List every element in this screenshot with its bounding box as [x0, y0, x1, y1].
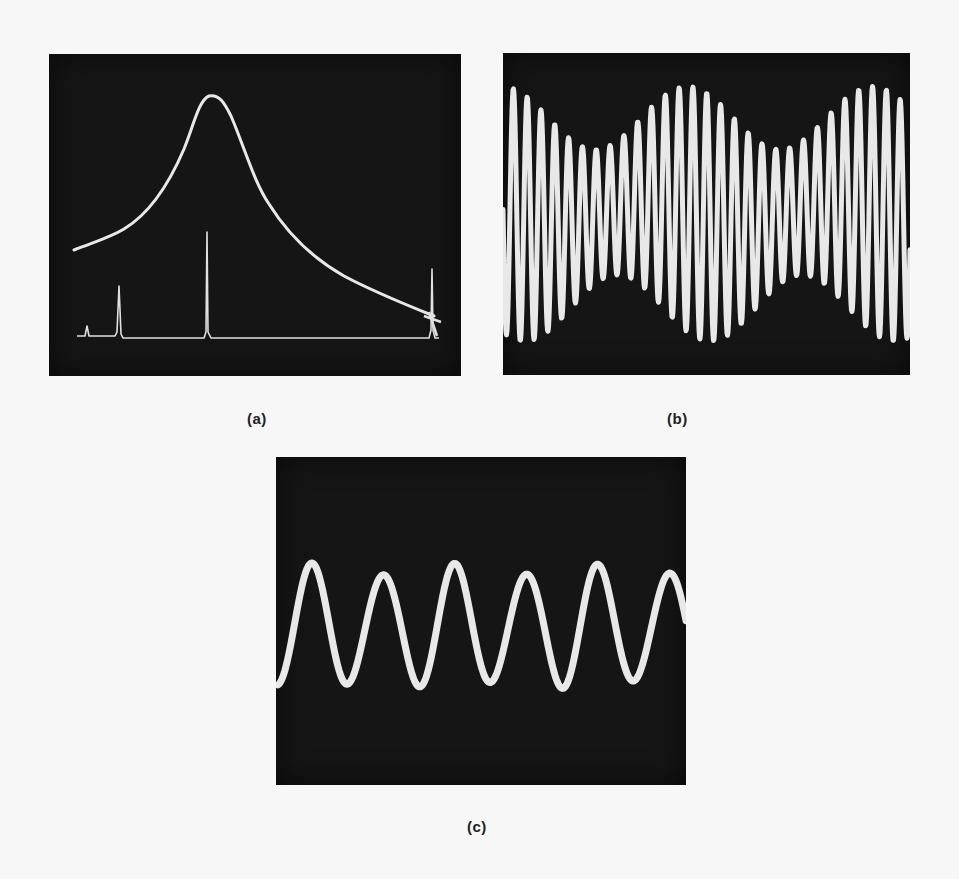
oscilloscope-panel-c: [276, 457, 686, 785]
panel-label-c: (c): [467, 818, 487, 835]
panel-label-b: (b): [667, 410, 688, 427]
oscilloscope-panel-a: [49, 54, 461, 376]
sine-waveform-trace: [276, 457, 686, 785]
panel-label-a: (a): [247, 410, 267, 427]
beat-waveform-trace: [503, 53, 910, 375]
resonance-trace: [49, 54, 461, 376]
oscilloscope-panel-b: [503, 53, 910, 375]
